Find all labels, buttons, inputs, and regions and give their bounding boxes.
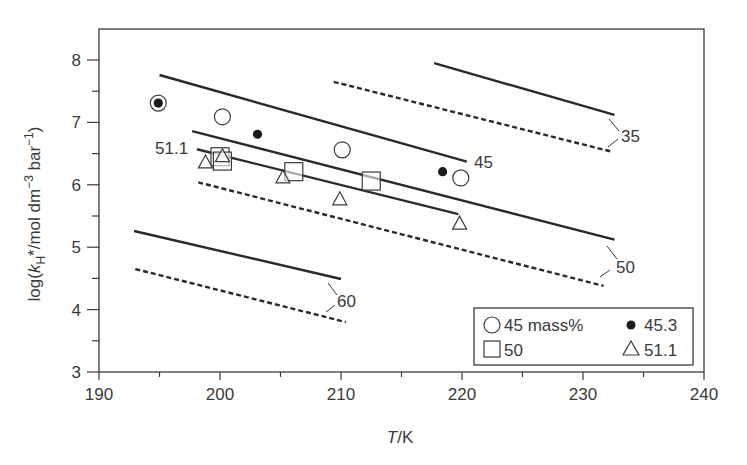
filled-circle-icon xyxy=(627,321,636,330)
x-tick-label: 240 xyxy=(690,385,718,404)
y-tick-label: 5 xyxy=(72,238,81,257)
open-circle-marker xyxy=(453,170,469,186)
solid-line-60 xyxy=(134,231,341,279)
filled-circle-marker xyxy=(438,167,447,176)
line-label: 60 xyxy=(337,292,356,311)
leader-line xyxy=(328,283,337,295)
x-axis-title: T/K xyxy=(387,428,414,447)
legend-label: 45.3 xyxy=(644,316,677,335)
x-tick-label: 230 xyxy=(569,385,597,404)
dashed-line-35 xyxy=(334,82,612,152)
open-square-marker xyxy=(362,172,380,190)
fit-lines xyxy=(134,63,614,322)
leader-line xyxy=(600,270,610,277)
filled-circle-marker xyxy=(253,130,262,139)
y-axis-title: log(kH*/mol dm−3 bar−1) xyxy=(22,127,48,302)
line-label: 45 xyxy=(474,153,493,172)
open-triangle-marker xyxy=(333,192,347,205)
line-label: 51.1 xyxy=(155,139,188,158)
x-tick-label: 220 xyxy=(448,385,476,404)
y-tick-label: 6 xyxy=(72,176,81,195)
open-triangle-marker xyxy=(198,155,212,168)
dashed-line-50 xyxy=(198,182,603,286)
y-tick-label: 7 xyxy=(72,113,81,132)
y-tick-label: 8 xyxy=(72,51,81,70)
open-triangle-marker xyxy=(453,216,467,229)
chart: 190200210220230240 345678 35455051.160 T… xyxy=(0,0,747,465)
open-circle-marker xyxy=(334,142,350,158)
filled-circle-marker xyxy=(154,98,163,107)
legend-label: 51.1 xyxy=(644,341,677,360)
solid-line-45 xyxy=(160,75,467,162)
solid-line-50 xyxy=(192,131,614,240)
x-axis: 190200210220230240 xyxy=(85,372,718,404)
solid-line-35 xyxy=(434,63,614,115)
line-label: 50 xyxy=(616,258,635,277)
legend-label: 45 mass% xyxy=(504,316,583,335)
leader-line xyxy=(609,119,619,131)
line-label: 35 xyxy=(621,127,640,146)
legend-item-50: 50 xyxy=(484,341,523,360)
open-circle-icon xyxy=(484,317,500,333)
legend: 45 mass% 45.3 50 51.1 xyxy=(474,308,693,365)
x-tick-label: 190 xyxy=(85,385,113,404)
dashed-line-60 xyxy=(135,269,346,322)
y-tick-label: 4 xyxy=(72,301,81,320)
open-square-icon xyxy=(484,341,500,357)
y-tick-label: 3 xyxy=(72,363,81,382)
open-circle-marker xyxy=(214,109,230,125)
y-axis: 345678 xyxy=(72,51,99,382)
x-tick-label: 200 xyxy=(206,385,234,404)
legend-label: 50 xyxy=(504,341,523,360)
leader-line xyxy=(608,139,618,147)
solid-line-51-1 xyxy=(197,149,458,214)
x-tick-label: 210 xyxy=(327,385,355,404)
leader-line xyxy=(326,305,335,312)
